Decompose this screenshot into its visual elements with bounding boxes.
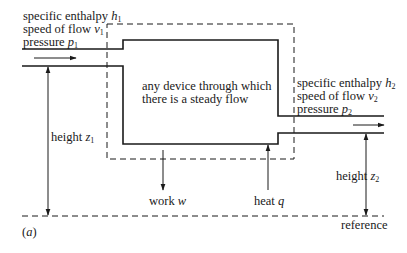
inlet-pressure-label: pressure p1 (23, 36, 78, 49)
height-z1-label: height z1 (51, 131, 94, 144)
height-z2-label: height z2 (336, 170, 379, 183)
outlet-pressure-label: pressure p2 (297, 103, 352, 116)
work-label: work w (149, 195, 186, 208)
heat-label: heat q (254, 195, 284, 208)
reference-label: reference (341, 219, 387, 232)
figure-label: (a) (22, 226, 37, 239)
device-label-line2: there is a steady flow (142, 93, 248, 106)
